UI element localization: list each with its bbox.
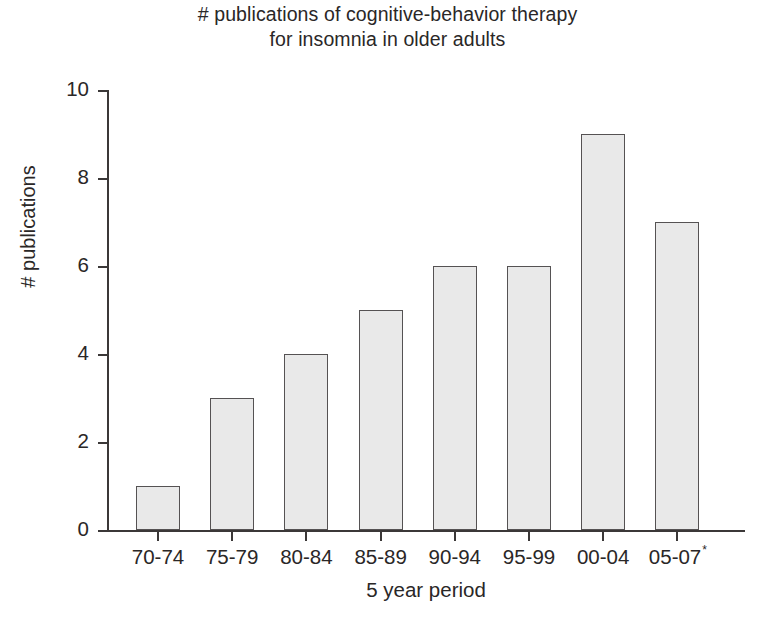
x-tick-mark-00-04 — [602, 532, 604, 541]
y-tick-label: 6 — [41, 253, 89, 277]
y-axis-label: # publications — [17, 162, 40, 292]
bar-70-74 — [136, 486, 180, 530]
bar-00-04 — [581, 134, 625, 530]
y-tick-mark — [98, 442, 107, 444]
x-tick-mark-90-94 — [454, 532, 456, 541]
y-tick-label: 0 — [41, 517, 89, 541]
y-tick-mark — [98, 266, 107, 268]
bar-85-89 — [359, 310, 403, 530]
x-tick-mark-05-07 — [676, 532, 678, 541]
x-tick-mark-75-79 — [231, 532, 233, 541]
bar-series — [107, 90, 745, 532]
x-tick-mark-95-99 — [528, 532, 530, 541]
footnote-marker: * — [702, 543, 707, 557]
chart-title-line-1: # publications of cognitive-behavior the… — [0, 2, 775, 27]
x-axis-label: 5 year period — [107, 578, 745, 602]
x-axis-tick-labels: 70-7475-7980-8485-8990-9495-9900-0405-07… — [107, 545, 745, 575]
x-tick-label-05-07: 05-07* — [632, 545, 722, 569]
x-tick-mark-70-74 — [157, 532, 159, 541]
chart-figure: # publications of cognitive-behavior the… — [0, 0, 775, 624]
y-tick-label: 8 — [41, 165, 89, 189]
plot-area: 0246810 70-7475-7980-8485-8990-9495-9900… — [107, 90, 745, 531]
y-tick-mark — [98, 354, 107, 356]
x-axis-ticks — [107, 532, 745, 544]
bar-90-94 — [433, 266, 477, 530]
x-tick-mark-80-84 — [305, 532, 307, 541]
bar-80-84 — [284, 354, 328, 530]
bar-05-07 — [655, 222, 699, 530]
y-tick-mark — [98, 90, 107, 92]
y-tick-mark — [98, 530, 107, 532]
y-tick-label: 10 — [41, 77, 89, 101]
chart-title-line-2: for insomnia in older adults — [0, 27, 775, 52]
x-tick-mark-85-89 — [380, 532, 382, 541]
y-tick-label: 2 — [41, 429, 89, 453]
bar-95-99 — [507, 266, 551, 530]
bar-75-79 — [210, 398, 254, 530]
chart-title: # publications of cognitive-behavior the… — [0, 2, 775, 52]
y-tick-label: 4 — [41, 341, 89, 365]
y-tick-mark — [98, 178, 107, 180]
